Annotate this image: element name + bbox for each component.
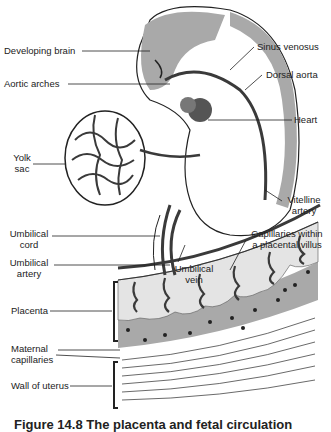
- label-sinus-venosus: Sinus venosus: [257, 41, 319, 52]
- label-heart: Heart: [294, 114, 317, 125]
- label-vitelline-artery-line1: Vitelline: [287, 194, 320, 205]
- label-umbilical-artery-line2: artery: [17, 268, 41, 279]
- label-capillaries-villus-line2: a placental villus: [252, 239, 322, 250]
- label-developing-brain: Developing brain: [4, 45, 75, 56]
- label-maternal-capillaries-line2: capillaries: [11, 354, 53, 365]
- label-capillaries-villus-line1: Capillaries within: [251, 228, 322, 239]
- label-placenta: Placenta: [11, 305, 48, 316]
- label-yolk-sac-line2: sac: [15, 163, 30, 174]
- label-umbilical-artery-line1: Umbilical: [10, 257, 49, 268]
- figure-caption: Figure 14.8 The placenta and fetal circu…: [14, 417, 292, 432]
- label-aortic-arches: Aortic arches: [4, 78, 59, 89]
- label-wall-of-uterus: Wall of uterus: [11, 380, 69, 391]
- label-umbilical-cord-line1: Umbilical: [10, 228, 49, 239]
- label-maternal-capillaries: Maternalcapillaries: [11, 343, 53, 365]
- label-umbilical-vein-line2: vein: [185, 274, 202, 285]
- label-vitelline-artery: Vitellineartery: [282, 194, 326, 216]
- label-capillaries-villus: Capillaries withina placental villus: [244, 228, 330, 250]
- label-dorsal-aorta: Dorsal aorta: [266, 69, 318, 80]
- label-vitelline-artery-line2: artery: [292, 205, 316, 216]
- label-umbilical-artery: Umbilicalartery: [4, 257, 54, 279]
- label-umbilical-cord: Umbilicalcord: [4, 228, 54, 250]
- brackets: [114, 282, 118, 408]
- label-maternal-capillaries-line1: Maternal: [11, 343, 48, 354]
- label-umbilical-vein: Umbilicalvein: [172, 263, 216, 285]
- label-yolk-sac: Yolksac: [10, 152, 34, 174]
- label-umbilical-vein-line1: Umbilical: [175, 263, 214, 274]
- label-umbilical-cord-line2: cord: [20, 239, 38, 250]
- label-yolk-sac-line1: Yolk: [13, 152, 31, 163]
- yolk-sac: [65, 111, 200, 205]
